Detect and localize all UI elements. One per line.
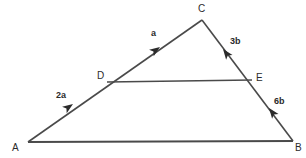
vector-geometry-diagram: A B C D E 2a a 3b 6b (0, 0, 306, 158)
vector-label-CE: 3b (230, 37, 241, 46)
vector-label-DC: a (151, 29, 156, 38)
vector-label-AD: 2a (56, 91, 66, 100)
vertex-label-D: D (97, 71, 104, 81)
vertex-label-E: E (256, 73, 263, 83)
triangle-edges (28, 20, 293, 142)
vector-label-EB: 6b (274, 97, 285, 106)
arrowhead-AD (62, 101, 75, 114)
vertex-label-B: B (295, 143, 302, 153)
segment-DE (107, 80, 252, 82)
vertex-label-C: C (198, 4, 205, 14)
segment-AB (28, 141, 293, 142)
vertex-label-A: A (12, 143, 19, 153)
